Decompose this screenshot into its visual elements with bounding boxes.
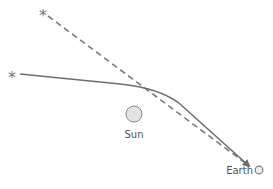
- sun-icon: [126, 106, 142, 122]
- apparent-star-icon: *: [39, 6, 47, 25]
- earth-label: Earth: [226, 165, 253, 176]
- sun-label: Sun: [124, 129, 143, 140]
- actual-star-icon: *: [8, 68, 16, 87]
- earth-icon: [255, 166, 263, 174]
- gravitational-lensing-diagram: * * Sun Earth: [0, 0, 273, 189]
